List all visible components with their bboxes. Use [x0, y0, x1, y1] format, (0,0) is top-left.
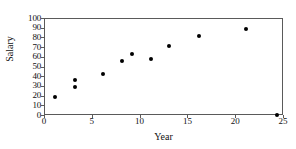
data-point	[130, 52, 134, 56]
data-point	[120, 59, 124, 63]
y-tick-label: 20	[1, 91, 41, 100]
x-tick-label: 0	[29, 117, 59, 126]
x-tick-label: 20	[220, 117, 250, 126]
data-point	[149, 57, 153, 61]
y-axis-title: Salary	[5, 19, 15, 79]
y-tick-label: 30	[1, 81, 41, 90]
scatter-plot-figure: 0102030405060708090100 Salary 0510152025…	[0, 0, 296, 149]
x-tick-mark	[140, 115, 141, 118]
x-tick-label: 10	[125, 117, 155, 126]
data-point	[197, 34, 201, 38]
data-point	[53, 95, 57, 99]
x-axis-title: Year	[44, 131, 283, 142]
data-point	[73, 78, 77, 82]
x-axis: 0510152025	[0, 117, 296, 131]
data-point	[244, 27, 248, 31]
x-tick-mark	[92, 115, 93, 118]
data-point	[101, 72, 105, 76]
x-tick-label: 15	[172, 117, 202, 126]
x-tick-mark	[283, 115, 284, 118]
data-point	[167, 44, 171, 48]
x-tick-mark	[187, 115, 188, 118]
y-tick-label: 10	[1, 101, 41, 110]
data-points-layer	[44, 18, 283, 115]
x-tick-mark	[44, 115, 45, 118]
data-point	[73, 85, 77, 89]
x-tick-mark	[235, 115, 236, 118]
x-tick-label: 25	[268, 117, 296, 126]
data-point	[275, 113, 279, 117]
x-tick-label: 5	[77, 117, 107, 126]
